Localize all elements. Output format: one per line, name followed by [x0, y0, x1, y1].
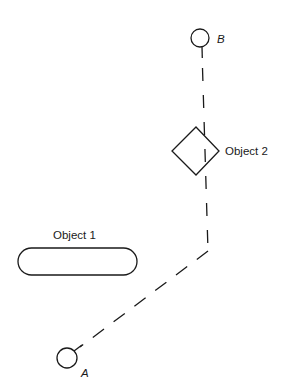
start-node-a-icon: [57, 348, 77, 368]
object-1-shape: [18, 248, 137, 275]
path-segment-vertical: [203, 68, 209, 251]
object-1-label: Object 1: [53, 230, 96, 242]
path-segment-diagonal: [80, 251, 208, 347]
path-diagram: [0, 0, 286, 390]
object-2-label: Object 2: [225, 146, 268, 158]
goal-node-label: B: [217, 34, 225, 46]
path-segment-a-stub: [74, 345, 82, 351]
goal-node-b-icon: [191, 29, 209, 47]
object-2-diamond: [172, 127, 219, 175]
start-node-label: A: [81, 368, 89, 380]
